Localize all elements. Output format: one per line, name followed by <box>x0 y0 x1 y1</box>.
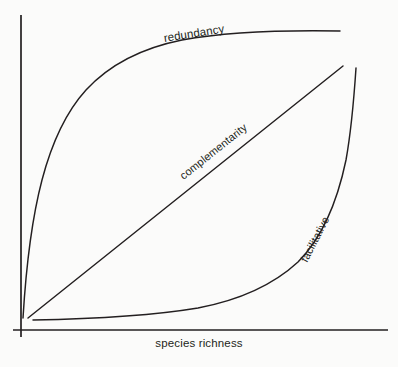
figure-container: redundancy complementarity facilitative … <box>0 0 398 367</box>
x-axis-label: species richness <box>0 337 398 349</box>
chart-canvas <box>0 0 398 367</box>
curve-facilitative <box>33 68 356 320</box>
